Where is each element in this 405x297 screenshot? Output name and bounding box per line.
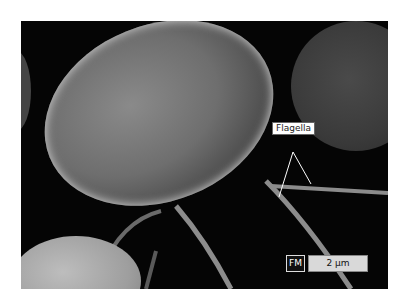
flagella-label: Flagella: [272, 122, 315, 135]
scale-bar: 2 µm: [308, 255, 368, 272]
microscopy-badge: FM: [286, 255, 305, 272]
micrograph: [21, 21, 388, 289]
